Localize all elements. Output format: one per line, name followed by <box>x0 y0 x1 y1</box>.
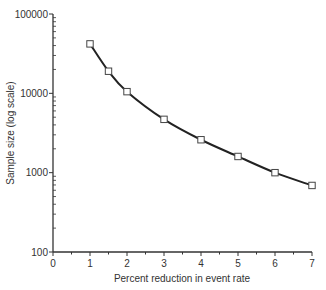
y-tick-label: 10000 <box>20 88 48 99</box>
x-tick-label: 5 <box>235 258 241 269</box>
data-point-marker <box>161 116 167 122</box>
x-axis-ticks: 01234567 <box>50 252 315 269</box>
data-line <box>90 44 312 186</box>
data-point-marker <box>87 41 93 47</box>
x-tick-label: 0 <box>50 258 56 269</box>
y-tick-label: 100000 <box>15 9 49 20</box>
chart: 01234567 100100010000100000 Percent redu… <box>0 0 326 290</box>
x-tick-label: 1 <box>87 258 93 269</box>
data-markers <box>87 41 315 189</box>
y-tick-label: 1000 <box>26 167 49 178</box>
y-tick-label: 100 <box>31 247 48 258</box>
data-point-marker <box>272 169 278 175</box>
x-tick-label: 7 <box>309 258 315 269</box>
x-tick-label: 2 <box>124 258 130 269</box>
x-tick-label: 3 <box>161 258 167 269</box>
x-axis-title: Percent reduction in event rate <box>114 273 251 284</box>
x-tick-label: 6 <box>272 258 278 269</box>
data-point-marker <box>124 88 130 94</box>
y-axis-title: Sample size (log scale) <box>5 81 16 184</box>
y-axis-ticks: 100100010000100000 <box>15 9 53 258</box>
data-point-marker <box>235 153 241 159</box>
data-point-marker <box>198 137 204 143</box>
axes <box>53 14 312 252</box>
data-point-marker <box>105 68 111 74</box>
x-tick-label: 4 <box>198 258 204 269</box>
data-point-marker <box>309 182 315 188</box>
